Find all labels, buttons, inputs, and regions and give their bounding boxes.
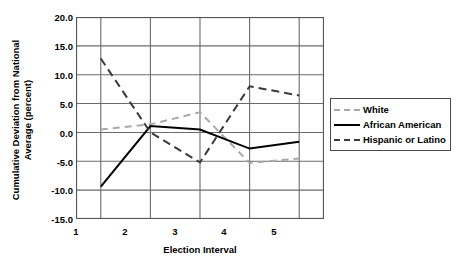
legend-item-hispanic-or-latino[interactable]: Hispanic or Latino <box>334 132 446 147</box>
x-axis-title: Election Interval <box>76 244 324 255</box>
y-tick-label: -10.0 <box>27 186 73 195</box>
y-tick-label: 0.0 <box>27 129 73 138</box>
legend-key-hispanic-icon <box>334 135 360 145</box>
legend-label: Hispanic or Latino <box>363 134 446 145</box>
y-tick-label: 20.0 <box>27 13 73 22</box>
y-tick-label: 15.0 <box>27 42 73 51</box>
legend-key-white-icon <box>334 105 360 115</box>
legend-key-african-american-icon <box>334 120 360 130</box>
chart-legend: White African American Hispanic or Latin… <box>330 98 451 151</box>
x-tick-label: 4 <box>209 226 239 237</box>
chart-container: Cumulative Deviation from National Avera… <box>0 0 462 271</box>
y-axis-title-line1: Cumulative Deviation from National <box>10 40 22 200</box>
plot-area <box>76 17 324 219</box>
legend-item-white[interactable]: White <box>334 102 446 117</box>
y-tick-label: 10.0 <box>27 71 73 80</box>
x-tick-label: 2 <box>110 226 140 237</box>
x-axis-tick-labels: 1 2 3 4 5 <box>0 226 462 240</box>
x-tick-label: 5 <box>259 226 289 237</box>
x-tick-label: 3 <box>160 226 190 237</box>
legend-label: African American <box>363 119 441 130</box>
plot-svg <box>76 17 324 219</box>
y-tick-label: -5.0 <box>27 158 73 167</box>
y-tick-label: 5.0 <box>27 100 73 109</box>
y-axis-tick-labels: 20.0 15.0 10.0 5.0 0.0 -5.0 -10.0 -15.0 <box>25 0 73 240</box>
legend-item-african-american[interactable]: African American <box>334 117 446 132</box>
y-tick-label: -15.0 <box>27 215 73 224</box>
legend-label: White <box>363 104 389 115</box>
x-tick-label: 1 <box>61 226 91 237</box>
